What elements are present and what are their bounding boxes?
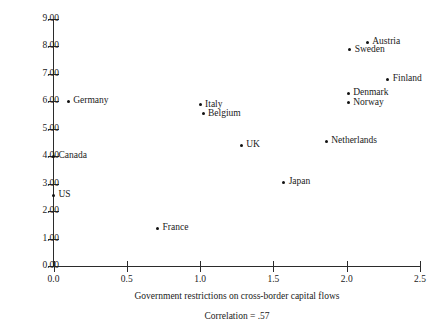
- data-point-marker: [282, 181, 285, 184]
- scatter-plot-figure: 0.001.002.003.004.005.006.007.008.009.00…: [0, 0, 440, 336]
- data-point-marker: [199, 103, 202, 106]
- data-point-label: France: [163, 222, 189, 232]
- x-tick: 1.0: [200, 0, 201, 1]
- y-axis-line: [53, 19, 54, 267]
- y-tick-label: 6.00: [15, 96, 59, 106]
- x-tick: 0.5: [127, 0, 128, 1]
- x-axis-line: [53, 266, 421, 267]
- data-point-marker: [347, 101, 350, 104]
- data-point-marker: [348, 48, 351, 51]
- x-tick: 2.0: [347, 0, 348, 1]
- y-tick: 3.00: [0, 184, 59, 185]
- correlation-annotation: Correlation = .57: [53, 310, 421, 322]
- x-tick-label: 1.5: [253, 274, 293, 284]
- x-tick: 1.5: [273, 0, 274, 1]
- data-point-marker: [240, 144, 243, 147]
- data-point-marker: [386, 78, 389, 81]
- data-point-label: Norway: [353, 97, 384, 107]
- data-point-marker: [52, 155, 55, 158]
- data-point-label: Japan: [289, 176, 311, 186]
- y-tick-label: 2.00: [15, 206, 59, 216]
- data-point-label: Netherlands: [331, 135, 377, 145]
- x-axis-title: Government restrictions on cross-border …: [53, 290, 421, 302]
- y-tick-label: 5.00: [15, 124, 59, 134]
- data-point-label: Canada: [59, 150, 88, 160]
- x-tick: 0.0: [54, 0, 55, 1]
- x-tick-label: 2.5: [400, 274, 440, 284]
- x-tick-label: 0.5: [107, 274, 147, 284]
- y-tick-label: 9.00: [15, 14, 59, 24]
- x-tick-label: 0.0: [34, 274, 74, 284]
- data-point-marker: [347, 92, 350, 95]
- data-point-marker: [325, 140, 328, 143]
- x-tick-label: 2.0: [327, 274, 367, 284]
- x-tick-mark: [273, 261, 274, 272]
- x-tick-label: 1.0: [180, 274, 220, 284]
- y-tick: 1.00: [0, 239, 59, 240]
- y-tick-label: 3.00: [15, 179, 59, 189]
- y-tick: 8.00: [0, 46, 59, 47]
- y-tick-label: 7.00: [15, 69, 59, 79]
- y-tick: 2.00: [0, 211, 59, 212]
- y-tick: 6.00: [0, 101, 59, 102]
- y-tick: 9.00: [0, 19, 59, 20]
- data-point-label: UK: [246, 139, 260, 149]
- y-tick-label: 8.00: [15, 41, 59, 51]
- y-tick: 5.00: [0, 129, 59, 130]
- x-tick-mark: [54, 261, 55, 272]
- data-point-label: Germany: [73, 95, 108, 105]
- x-tick-mark: [200, 261, 201, 272]
- data-point-label: Austria: [372, 36, 400, 46]
- data-point-label: Denmark: [353, 87, 388, 97]
- y-tick: 0.00: [0, 266, 59, 267]
- y-tick-label: 0.00: [15, 261, 59, 271]
- x-tick: 2.5: [420, 0, 421, 1]
- y-tick: 7.00: [0, 74, 59, 75]
- x-tick-mark: [347, 261, 348, 272]
- data-point-marker: [366, 41, 369, 44]
- data-point-label: Finland: [393, 73, 422, 83]
- x-tick-mark: [127, 261, 128, 272]
- data-point-label: Belgium: [208, 108, 241, 118]
- y-tick-label: 1.00: [15, 234, 59, 244]
- y-tick: 4.00: [0, 156, 59, 157]
- data-point-marker: [67, 100, 70, 103]
- x-tick-mark: [420, 261, 421, 272]
- data-point-marker: [156, 227, 159, 230]
- data-point-label: US: [59, 189, 71, 199]
- data-point-marker: [202, 112, 205, 115]
- data-point-marker: [52, 194, 55, 197]
